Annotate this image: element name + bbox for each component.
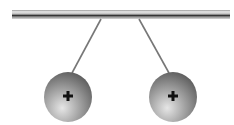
left-thread: [72, 19, 101, 73]
charged-spheres-diagram: [0, 0, 234, 125]
right-thread: [139, 19, 169, 73]
right-sphere: [149, 72, 197, 122]
support-rod: [12, 10, 230, 19]
left-sphere: [44, 72, 92, 122]
